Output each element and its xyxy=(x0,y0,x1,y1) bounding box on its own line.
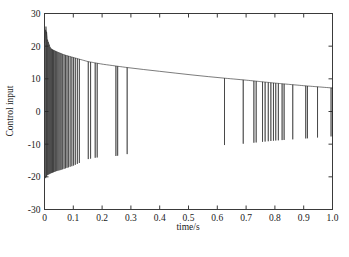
y-tick-label: 10 xyxy=(31,74,41,84)
y-axis-label: Control input xyxy=(5,85,15,136)
x-tick-label: 0.6 xyxy=(211,213,223,223)
y-tick-label: -30 xyxy=(28,205,41,215)
x-tick-label: 0.3 xyxy=(125,213,137,223)
y-tick-label: 0 xyxy=(36,107,41,117)
x-tick-label: 0.2 xyxy=(96,213,108,223)
plot-frame xyxy=(45,14,333,210)
x-axis-label: time/s xyxy=(176,222,200,232)
x-tick-label: 0.1 xyxy=(67,213,79,223)
x-tick-label: 0.4 xyxy=(154,213,166,223)
control-input-chart: 00.10.20.30.40.50.60.70.80.91.0-30-20-10… xyxy=(0,0,349,257)
figure-container: 00.10.20.30.40.50.60.70.80.91.0-30-20-10… xyxy=(0,0,349,257)
x-tick-label: 0 xyxy=(42,213,47,223)
x-tick-label: 1.0 xyxy=(327,213,339,223)
y-tick-label: -10 xyxy=(28,140,41,150)
x-tick-label: 0.7 xyxy=(240,213,252,223)
x-tick-label: 0.9 xyxy=(298,213,310,223)
x-tick-label: 0.5 xyxy=(183,213,195,223)
y-tick-label: 30 xyxy=(31,9,41,19)
figure-caption xyxy=(0,248,349,257)
axis-tick-labels: 00.10.20.30.40.50.60.70.80.91.0-30-20-10… xyxy=(28,9,339,223)
control-input-trace xyxy=(45,27,333,179)
axis-ticks xyxy=(45,14,333,210)
y-tick-label: -20 xyxy=(28,172,41,182)
y-tick-label: 20 xyxy=(31,42,41,52)
x-tick-label: 0.8 xyxy=(269,213,281,223)
